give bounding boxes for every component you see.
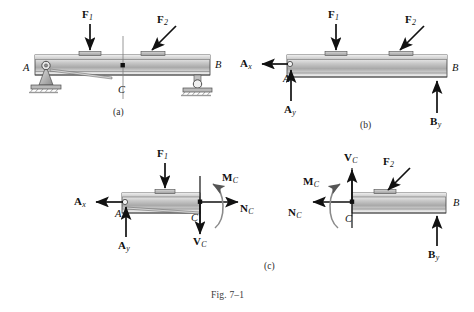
beam-c-right xyxy=(352,193,446,213)
load-pad-f2-c-right xyxy=(374,190,396,194)
label-ax-b: Ax xyxy=(240,58,252,71)
label-ay-c-left: Ay xyxy=(118,240,130,253)
label-vc-c-left: VC xyxy=(193,236,207,249)
load-pad-f2-b xyxy=(389,52,413,56)
figure-7-1: F1 F2 A B C (a) F1 F2 Ax Ay By A B (b) F… xyxy=(0,0,474,312)
panel-label-c: (c) xyxy=(264,262,275,272)
panel-c-right-drawing xyxy=(313,168,446,246)
label-by-c-right: By xyxy=(428,249,439,262)
label-point-a-c-left: A xyxy=(115,209,121,220)
pin-eye-a-c xyxy=(122,199,127,204)
label-point-b-c-right: B xyxy=(453,198,459,209)
internal-moment-arc-mc-c-left xyxy=(213,184,223,228)
label-f2-a: F2 xyxy=(157,14,168,27)
figure-drawing-canvas xyxy=(0,0,474,312)
label-point-a-b: A xyxy=(283,74,289,85)
label-f2-b: F2 xyxy=(405,14,416,27)
label-ax-c-left: Ax xyxy=(74,196,86,209)
label-point-b-b: B xyxy=(452,63,458,74)
panel-label-b: (b) xyxy=(360,121,371,131)
panel-b-drawing xyxy=(262,24,447,113)
panel-label-a: (a) xyxy=(113,108,124,118)
load-pad-f1-c-left xyxy=(155,190,175,194)
label-point-c-a: C xyxy=(118,85,125,96)
label-by-b: By xyxy=(430,116,441,129)
force-arrow-f2-b xyxy=(400,26,424,50)
panel-c-left-drawing xyxy=(96,163,238,237)
load-pad-f2-a xyxy=(141,52,165,56)
label-point-c-c-right: C xyxy=(345,214,352,225)
label-ay-b: Ay xyxy=(284,104,296,117)
point-marker-c-a xyxy=(121,63,125,67)
beam-c-left xyxy=(122,193,200,214)
roller-support-b xyxy=(181,75,212,96)
force-arrow-f2-a xyxy=(152,26,176,50)
pin-eye-a-b xyxy=(287,61,292,66)
label-nc-c-left: NC xyxy=(240,203,254,216)
label-mc-c-left: MC xyxy=(222,172,238,185)
label-point-b-a: B xyxy=(215,60,221,71)
label-mc-c-right: MC xyxy=(303,176,319,189)
label-f1-b: F1 xyxy=(328,9,339,22)
label-point-a-a: A xyxy=(23,63,29,74)
label-f2-c-right: F2 xyxy=(383,156,394,169)
internal-moment-arc-mc-c-right xyxy=(330,184,340,228)
label-point-c-c-left: C xyxy=(191,213,198,224)
beam-b xyxy=(287,55,447,77)
label-f1-a: F1 xyxy=(82,9,93,22)
label-f1-c-left: F1 xyxy=(157,148,168,161)
label-vc-c-right: VC xyxy=(344,152,358,165)
force-arrow-f2-c-right xyxy=(388,168,410,190)
load-pad-f1-a xyxy=(79,52,101,56)
load-pad-f1-b xyxy=(325,52,347,56)
label-nc-c-right: NC xyxy=(288,207,302,220)
figure-caption: Fig. 7–1 xyxy=(211,291,244,301)
